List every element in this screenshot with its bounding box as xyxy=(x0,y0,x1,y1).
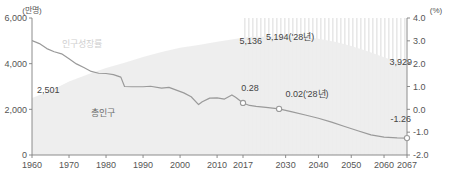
marker-rate-2028 xyxy=(276,106,281,111)
annotation-pop-peak: 5,194('28년) xyxy=(266,32,314,42)
x-axis-tick-2040: 2040 xyxy=(308,160,328,170)
x-axis-tick-1960: 1960 xyxy=(22,160,42,170)
chart-svg: 6,0004,0002,0000 4.03.02.01.00.0-1.0-2.0… xyxy=(0,0,467,179)
annotation-rate-2028: 0.02('28년) xyxy=(285,89,328,99)
x-axis-tick-2030: 2030 xyxy=(276,160,296,170)
x-axis-tick-1990: 1990 xyxy=(133,160,153,170)
annotation-pop-end: 3,929 xyxy=(389,57,412,67)
left-axis-tick-2: 2,000 xyxy=(4,105,27,115)
x-axis-tick-2060: 2060 xyxy=(374,160,394,170)
x-axis-tick-2000: 2000 xyxy=(170,160,190,170)
annotation-rate-2067: -1.26 xyxy=(390,114,411,124)
x-axis-tick-1980: 1980 xyxy=(96,160,116,170)
x-axis-tick-2067: 2067 xyxy=(397,160,417,170)
annotation-pop-2017: 5,136 xyxy=(239,36,262,46)
marker-rate-2067 xyxy=(404,136,409,141)
x-axis-tick-2017: 2017 xyxy=(233,160,253,170)
right-axis-tick-6: -2.0 xyxy=(413,150,429,160)
right-axis-unit-label: (%) xyxy=(430,6,443,15)
right-axis-tick-1: 3.0 xyxy=(413,36,426,46)
right-axis-tick-5: -1.0 xyxy=(413,127,429,137)
x-axis-tick-1970: 1970 xyxy=(59,160,79,170)
right-axis-tick-2: 2.0 xyxy=(413,59,426,69)
annotation-rate-2017: 0.28 xyxy=(241,83,259,93)
left-axis-tick-3: 0 xyxy=(22,150,27,160)
annotation-pop-start: 2,501 xyxy=(37,85,60,95)
series-label-growth-rate: 인구성장률 xyxy=(62,39,102,49)
x-axis-tick-2010: 2010 xyxy=(207,160,227,170)
right-axis-tick-3: 1.0 xyxy=(413,82,426,92)
marker-rate-2017 xyxy=(240,100,245,105)
x-axis-tick-2050: 2050 xyxy=(341,160,361,170)
left-axis-unit-label: (만명) xyxy=(22,5,42,15)
series-label-total-population: 총인구 xyxy=(91,108,115,118)
right-axis-tick-4: 0.0 xyxy=(413,105,426,115)
population-projection-chart: 6,0004,0002,0000 4.03.02.01.00.0-1.0-2.0… xyxy=(0,0,467,179)
left-axis-tick-1: 4,000 xyxy=(4,59,27,69)
right-axis-tick-0: 4.0 xyxy=(413,13,426,23)
